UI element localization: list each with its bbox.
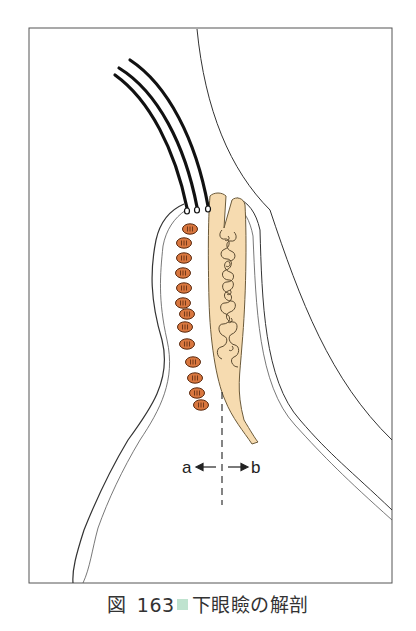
orbicularis-muscle: [176, 224, 209, 410]
caption-number: 163: [137, 594, 175, 616]
skin-outline-outer: [73, 204, 184, 583]
caption-prefix: 図: [107, 594, 127, 616]
caption-title: 下眼瞼の解剖: [192, 594, 309, 616]
label-b: b: [251, 458, 260, 477]
figure-caption: 図163下眼瞼の解剖: [0, 590, 416, 617]
caption-square-icon: [177, 599, 188, 610]
tarsal-plate: [208, 193, 258, 444]
eyelashes: [115, 60, 208, 208]
skin-outline-inner: [83, 210, 186, 583]
label-a: a: [182, 458, 192, 477]
eyelid-anatomy-diagram: a b: [0, 0, 416, 631]
